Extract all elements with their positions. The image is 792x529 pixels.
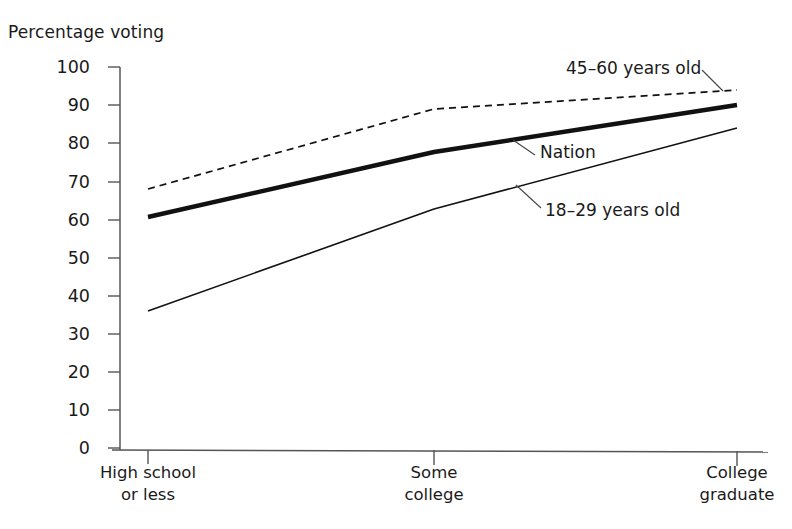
leader-line-45-60-years-old — [702, 70, 723, 91]
series-line-45-60-years-old — [148, 90, 737, 189]
series-annotation-18-29-years-old: 18–29 years old — [545, 200, 680, 220]
series-annotation-45-60-years-old: 45–60 years old — [566, 58, 701, 78]
chart-container: Percentage voting 100 90 80 70 60 50 40 … — [0, 0, 792, 529]
x-tick-label-college-graduate: College graduate — [699, 462, 774, 506]
leader-line-nation — [513, 140, 535, 155]
x-tick-label-high-school-or-less: High school or less — [100, 462, 196, 506]
leader-line-18-29-years-old — [516, 185, 541, 208]
chart-plot-svg — [0, 0, 792, 529]
series-annotation-nation: Nation — [540, 142, 596, 162]
y-axis — [108, 67, 120, 450]
x-tick-label-some-college: Some college — [404, 462, 463, 506]
